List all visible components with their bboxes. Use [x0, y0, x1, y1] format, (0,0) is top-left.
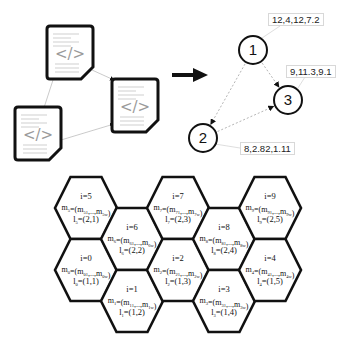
hex-l-coord: l6=(2,2) [119, 245, 145, 256]
vector-label-node-1: 12,4,12,7.2 [268, 13, 324, 26]
hex-l-coord: l7=(2,3) [165, 214, 191, 225]
code-glyph: </> [120, 98, 150, 116]
hex-index: i=0 [80, 253, 91, 263]
hex-l-coord: l0=(1,1) [73, 276, 99, 287]
code-glyph: </> [23, 126, 53, 144]
code-document-icon: </> [15, 107, 61, 160]
graph-node-1: 1 [239, 36, 267, 64]
hex-l-coord: l8=(2,4) [211, 245, 237, 256]
hex-l-coord: l9=(2,5) [257, 214, 283, 225]
hex-l-coord: l2=(1,3) [165, 276, 191, 287]
hex-index: i=4 [264, 253, 276, 263]
svg-text:3: 3 [284, 91, 292, 108]
svg-text:1: 1 [249, 41, 257, 58]
edge-2-3 [218, 107, 274, 132]
hex-index: i=5 [80, 191, 91, 201]
hex-index: i=7 [172, 191, 183, 201]
graph-node-3: 3 [274, 86, 302, 114]
hex-l-coord: l1=(1,2) [119, 307, 145, 318]
hex-index: i=3 [218, 284, 229, 294]
hex-l-coord: l3=(1,4) [211, 307, 237, 318]
right-arrow-icon [172, 68, 208, 82]
hex-index: i=6 [126, 222, 137, 232]
code-document-icon: </> [112, 79, 158, 132]
graph-node-2: 2 [189, 124, 217, 152]
vector-label-node-2: 8,2.82,1.11 [240, 142, 295, 155]
vector-label-node-3: 9,11.3,9.1 [286, 65, 336, 78]
hex-index: i=8 [218, 222, 229, 232]
code-glyph: </> [55, 45, 85, 63]
code-document-icon: </> [47, 26, 93, 79]
hex-index: i=1 [126, 284, 137, 294]
edge-1-2 [211, 64, 245, 124]
hex-l-coord: l4=(1,5) [257, 276, 283, 287]
diagram-canvas: </></></> 123 i=5m5=(m51,..,m5w)l5=(2,1)… [0, 0, 355, 345]
hex-index: i=9 [264, 191, 275, 201]
hex-l-coord: l5=(2,1) [73, 214, 99, 225]
edge-1-3 [262, 63, 279, 87]
hex-index: i=2 [172, 253, 183, 263]
svg-text:2: 2 [199, 129, 207, 146]
